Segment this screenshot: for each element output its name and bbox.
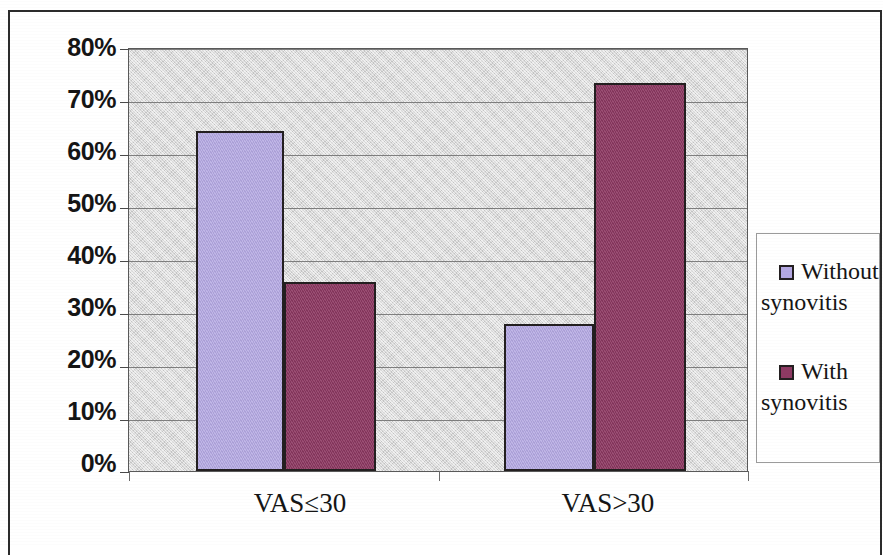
x-tick-mark-end	[748, 471, 749, 481]
x-tick-mark-start	[129, 471, 130, 481]
plot-area	[128, 48, 748, 472]
y-tick-label-80: 80%	[20, 35, 116, 60]
bar-without-synovitis-vas-le-30[interactable]	[196, 131, 284, 471]
y-tick-label-30: 30%	[20, 295, 116, 320]
y-tick-mark-30	[120, 314, 129, 315]
y-tick-mark-60	[120, 155, 129, 156]
y-tick-label-70: 70%	[20, 87, 116, 112]
y-tick-mark-40	[120, 261, 129, 262]
y-tick-label-10: 10%	[20, 399, 116, 424]
gridline-80	[129, 49, 747, 50]
y-tick-mark-80	[120, 49, 129, 50]
x-category-label-vas-gt-30: VAS>30	[478, 490, 738, 517]
y-tick-mark-70	[120, 102, 129, 103]
y-tick-label-40: 40%	[20, 243, 116, 268]
bar-with-synovitis-vas-le-30[interactable]	[284, 282, 376, 471]
legend-swatch-with-synovitis-icon	[779, 365, 794, 380]
legend-label-with-synovitis-line2: synovitis	[757, 387, 881, 418]
legend: Without synovitis With synovitis	[756, 233, 880, 463]
y-tick-label-50: 50%	[20, 191, 116, 216]
y-tick-label-60: 60%	[20, 139, 116, 164]
legend-item-with-synovitis[interactable]: With synovitis	[757, 356, 881, 418]
legend-swatch-without-synovitis-icon	[779, 265, 794, 280]
legend-item-without-synovitis[interactable]: Without synovitis	[757, 256, 881, 318]
y-tick-mark-10	[120, 420, 129, 421]
y-tick-mark-20	[120, 367, 129, 368]
x-category-label-vas-le-30: VAS≤30	[170, 490, 430, 517]
legend-label-without-synovitis-line2: synovitis	[757, 287, 881, 318]
bar-with-synovitis-vas-gt-30[interactable]	[594, 83, 686, 471]
legend-label-without-synovitis-line1: Without	[801, 258, 879, 284]
y-tick-mark-0	[120, 472, 129, 473]
y-axis: 80% 70% 60% 50% 40% 30% 20% 10% 0%	[8, 0, 116, 545]
legend-label-with-synovitis-line1: With	[801, 358, 848, 384]
y-tick-label-0: 0%	[20, 451, 116, 476]
y-tick-mark-50	[120, 208, 129, 209]
y-tick-label-20: 20%	[20, 347, 116, 372]
x-tick-mark-category-divider	[439, 471, 440, 481]
bar-without-synovitis-vas-gt-30[interactable]	[504, 324, 594, 471]
